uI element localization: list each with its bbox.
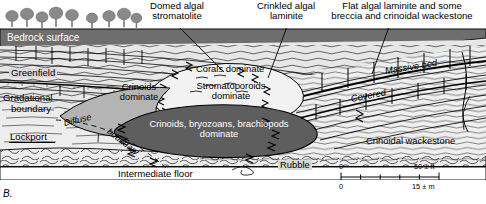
label-lockport: Lockport <box>10 132 47 142</box>
facies-line-2: dominate <box>212 90 251 101</box>
callout-domed-algal-stromatolite: Domed algal stromatolite <box>131 1 223 21</box>
facies-line-2: dominate <box>200 128 239 139</box>
label-corals-dominate: Corals dominate <box>196 64 264 74</box>
tree-row-icon <box>6 7 142 28</box>
label-greenfield: Greenfield <box>9 68 57 78</box>
panel-label: B. <box>3 188 12 199</box>
label-rubble: Rubble <box>278 160 312 170</box>
scale-feet-zero: 0 <box>339 162 343 171</box>
facies-line-2: dominate <box>120 91 159 102</box>
scale-meters-max: 15 ± m <box>412 182 435 191</box>
label-bedrock-surface: Bedrock surface <box>7 33 79 44</box>
label-intermediate-floor: Intermediate floor <box>118 169 193 179</box>
label-gradational-boundary-line2: boundary <box>11 104 51 114</box>
label-gradational-boundary-line1: Gradational <box>3 93 53 103</box>
cross-section-drawing <box>0 0 486 204</box>
callout-line-2: breccia and crinoidal wackestone <box>331 10 472 21</box>
lockport-underline <box>9 142 55 143</box>
figure-panel: Domed algal stromatolite Crinkled algal … <box>0 0 486 204</box>
label-stromatoporoids-dominate: Stromatoporoids dominate <box>186 81 276 101</box>
label-crinoidal-wackestone: Crinoidal wackestone <box>366 136 455 146</box>
scale-meters-zero: 0 <box>339 182 343 191</box>
label-crinoids-dominate: Crinoids dominate <box>110 82 168 102</box>
label-core-facies: Crinoids, bryozoans, brachiopods dominat… <box>133 119 305 139</box>
callout-line-2: stromatolite <box>152 10 202 21</box>
scale-feet-max: 50 ± ft <box>414 162 435 171</box>
callout-flat-algal-laminite: Flat algal laminite and some breccia and… <box>318 1 486 21</box>
